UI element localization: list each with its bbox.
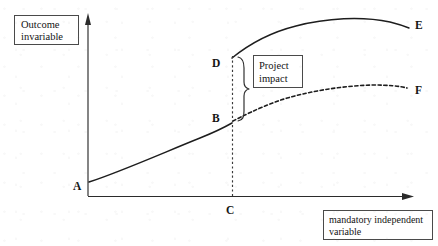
y-axis-label-line1: Outcome: [21, 19, 60, 30]
x-axis-label-line2: variable: [329, 226, 362, 237]
point-label-e: E: [415, 19, 423, 31]
y-axis-label-line2: invariable: [21, 31, 63, 42]
project-impact-figure: A B C D E F Outcome invariable Project i…: [0, 0, 438, 246]
project-impact-brace-icon: [238, 57, 249, 121]
baseline-curve-a-to-b: [89, 123, 232, 182]
x-axis: [88, 193, 414, 200]
x-axis-label-line1: mandatory independent: [329, 214, 423, 225]
with-project-curve-d-to-e: [232, 19, 409, 58]
point-label-f: F: [415, 84, 422, 96]
point-label-d: D: [212, 57, 220, 69]
project-impact-label-box: Project impact: [254, 56, 303, 88]
point-label-a: A: [73, 180, 82, 192]
y-axis-arrowhead-icon: [85, 13, 91, 25]
project-impact-line2: impact: [259, 73, 288, 84]
y-axis-label-box: Outcome invariable: [15, 16, 79, 45]
point-label-c: C: [226, 204, 234, 216]
y-axis: [85, 13, 91, 196]
point-label-b: B: [212, 112, 220, 124]
without-project-curve-b-to-f: [233, 85, 407, 121]
x-axis-arrowhead-icon: [402, 193, 414, 200]
project-impact-line1: Project: [259, 60, 289, 71]
figure-canvas: A B C D E F Outcome invariable Project i…: [0, 0, 438, 246]
x-axis-label-box: mandatory independent variable: [324, 211, 433, 240]
